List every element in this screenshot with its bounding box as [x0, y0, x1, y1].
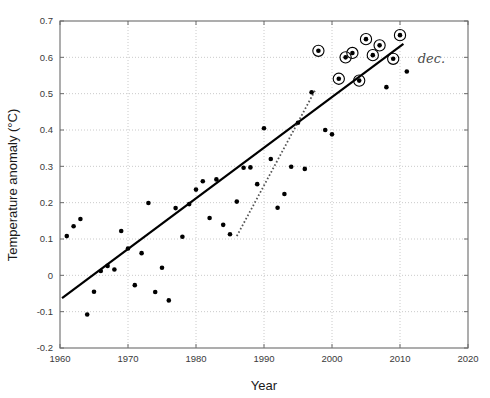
data-point — [309, 90, 314, 95]
y-tick-label: 0 — [48, 270, 53, 281]
data-point — [391, 56, 396, 61]
x-tick-label: 2000 — [321, 353, 342, 364]
x-axis-label: Year — [251, 378, 278, 393]
data-point — [323, 128, 328, 133]
data-point — [275, 205, 280, 210]
y-tick-label: -0.1 — [37, 306, 53, 317]
data-point — [337, 76, 342, 81]
y-tick-label: 0.3 — [40, 161, 53, 172]
data-point — [296, 120, 301, 125]
y-tick-label: 0.1 — [40, 233, 53, 244]
x-tick-label: 1990 — [253, 353, 274, 364]
data-point — [371, 53, 376, 58]
y-tick-label: 0.5 — [40, 88, 53, 99]
data-point — [71, 224, 76, 229]
data-point — [398, 33, 403, 38]
annotations: dec. — [418, 51, 445, 66]
data-point — [384, 85, 389, 90]
data-point — [357, 78, 362, 83]
data-point — [316, 48, 321, 53]
y-tick-label: 0.6 — [40, 52, 53, 63]
data-point — [126, 246, 131, 251]
x-tick-label: 1980 — [185, 353, 206, 364]
data-point — [269, 157, 274, 162]
y-tick-label: 0.7 — [40, 15, 53, 26]
data-point — [194, 187, 199, 192]
data-point — [221, 223, 226, 228]
data-point — [78, 217, 83, 222]
data-point — [377, 43, 382, 48]
data-point — [139, 251, 144, 256]
x-tick-label: 2020 — [457, 353, 478, 364]
data-point — [262, 126, 267, 131]
data-point — [167, 298, 172, 303]
y-axis-label: Temperature anomaly (°C) — [5, 109, 20, 262]
y-tick-label: 0.2 — [40, 197, 53, 208]
temperature-anomaly-chart: -0.2-0.100.10.20.30.40.50.60.71960197019… — [0, 0, 490, 398]
data-point — [160, 265, 165, 270]
data-point — [207, 216, 212, 221]
data-point — [92, 289, 97, 294]
data-point — [153, 290, 158, 295]
data-point — [173, 206, 178, 211]
data-point — [289, 164, 294, 169]
handwritten-note: dec. — [418, 51, 445, 66]
data-point — [65, 234, 70, 239]
x-tick-label: 1970 — [117, 353, 138, 364]
data-point — [405, 69, 410, 74]
data-point — [119, 229, 124, 234]
data-point — [187, 202, 192, 207]
x-tick-label: 2010 — [389, 353, 410, 364]
data-point — [235, 199, 240, 204]
data-point — [364, 37, 369, 42]
data-point — [133, 283, 138, 288]
data-point — [282, 192, 287, 197]
data-point — [105, 264, 110, 269]
x-tick-label: 1960 — [49, 353, 70, 364]
data-point — [214, 177, 219, 182]
data-point — [201, 179, 206, 184]
data-point — [112, 267, 117, 272]
data-point — [303, 167, 308, 172]
data-point — [180, 235, 185, 240]
data-point — [146, 201, 151, 206]
data-point — [241, 165, 246, 170]
y-tick-label: -0.2 — [37, 342, 53, 353]
data-point — [85, 312, 90, 317]
chart-background — [0, 0, 490, 398]
y-tick-label: 0.4 — [40, 124, 53, 135]
data-point — [255, 182, 260, 187]
data-point — [228, 232, 233, 237]
data-point — [248, 165, 253, 170]
data-point — [99, 269, 104, 274]
data-point — [330, 132, 335, 137]
